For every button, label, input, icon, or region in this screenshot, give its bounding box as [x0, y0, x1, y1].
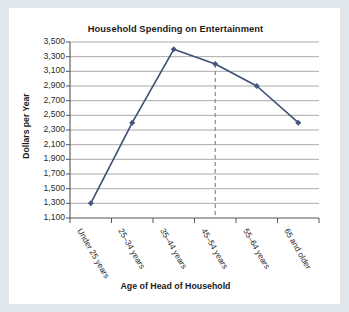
y-axis-ticks-group [66, 42, 70, 218]
data-point-marker[interactable] [212, 61, 218, 67]
gridlines-group [70, 42, 319, 218]
x-axis-title: Age of Head of Household [10, 281, 341, 291]
x-axis-ticks-group [70, 218, 319, 223]
figure-outer-frame: Household Spending on Entertainment Doll… [0, 0, 349, 312]
series-polyline [91, 49, 299, 203]
chart-card: Household Spending on Entertainment Doll… [9, 8, 340, 304]
data-series-line [91, 49, 299, 203]
data-point-marker[interactable] [88, 200, 94, 206]
data-series-markers [88, 46, 302, 206]
